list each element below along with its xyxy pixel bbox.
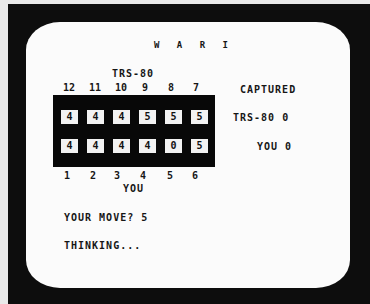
- wari-board: 4 4 4 5 5 5 4 4 4 4 0 5: [53, 95, 215, 167]
- cpu-side-label: TRS-80: [112, 68, 154, 79]
- pit-7: 5: [191, 110, 208, 124]
- pit-number: 3: [107, 170, 127, 181]
- pit-1[interactable]: 4: [61, 139, 78, 153]
- pit-number: 12: [59, 82, 79, 93]
- pit-4[interactable]: 4: [139, 139, 156, 153]
- pit-8: 5: [165, 110, 182, 124]
- pit-number: 9: [135, 82, 155, 93]
- game-title: W A R I: [154, 40, 234, 50]
- pit-9: 5: [139, 110, 156, 124]
- pit-2[interactable]: 4: [87, 139, 104, 153]
- captured-heading: CAPTURED: [240, 84, 296, 95]
- pit-3[interactable]: 4: [113, 139, 130, 153]
- captured-player: YOU 0: [257, 141, 292, 152]
- pit-number: 8: [161, 82, 181, 93]
- player-side-label: YOU: [123, 183, 144, 194]
- pit-number: 5: [160, 170, 180, 181]
- captured-cpu: TRS-80 0: [233, 112, 289, 123]
- status-text: THINKING...: [64, 240, 141, 251]
- pit-number: 11: [85, 82, 105, 93]
- pit-5[interactable]: 0: [165, 139, 182, 153]
- pit-number: 1: [57, 170, 77, 181]
- pit-number: 6: [185, 170, 205, 181]
- pit-number: 4: [133, 170, 153, 181]
- pit-number: 2: [83, 170, 103, 181]
- move-prompt[interactable]: YOUR MOVE? 5: [64, 212, 148, 223]
- pit-number: 7: [186, 82, 206, 93]
- pit-number: 10: [111, 82, 131, 93]
- pit-6[interactable]: 5: [191, 139, 208, 153]
- pit-12: 4: [61, 110, 78, 124]
- pit-10: 4: [113, 110, 130, 124]
- pit-11: 4: [87, 110, 104, 124]
